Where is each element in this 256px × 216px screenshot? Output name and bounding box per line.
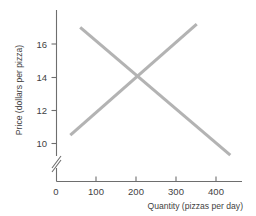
y-tick-label-10: 10 [36,138,47,149]
x-tick-label-300: 300 [168,186,184,197]
supply-curve [70,24,196,135]
y-tick-label-12: 12 [36,105,47,116]
x-axis-title: Quantity (pizzas per day) [147,201,243,211]
x-tick-label-200: 200 [128,186,144,197]
chart-canvas: 16 14 12 10 0 100 200 300 400 Quantity (… [0,0,256,216]
supply-demand-chart: 16 14 12 10 0 100 200 300 400 Quantity (… [0,0,256,216]
y-tick-label-16: 16 [36,39,47,50]
y-tick-label-14: 14 [36,72,47,83]
y-axis-title: Price (dollars per pizza) [14,45,24,135]
x-tick-label-400: 400 [208,186,224,197]
x-tick-label-0: 0 [53,186,58,197]
demand-curve [80,27,230,155]
x-tick-label-100: 100 [88,186,104,197]
